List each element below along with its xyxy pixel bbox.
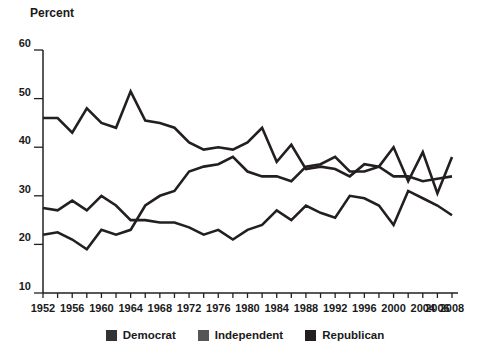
legend-label-independent: Independent bbox=[215, 329, 283, 341]
y-tick-label: 10 bbox=[19, 280, 31, 292]
legend-swatch-democrat bbox=[106, 330, 117, 341]
legend-swatch-independent bbox=[198, 330, 209, 341]
x-tick-label: 1976 bbox=[206, 302, 230, 314]
x-tick-label: 1964 bbox=[118, 302, 143, 314]
line-chart-plot: 605040302010 195219561960196419681972197… bbox=[0, 0, 490, 363]
chart-container: Percent 605040302010 1952195619601964196… bbox=[0, 0, 490, 363]
x-tick-label: 1960 bbox=[89, 302, 113, 314]
y-axis: 605040302010 bbox=[19, 37, 43, 293]
x-tick-label: 1956 bbox=[60, 302, 84, 314]
y-tick-label: 50 bbox=[19, 86, 31, 98]
series-lines bbox=[43, 91, 452, 249]
y-tick-label: 60 bbox=[19, 37, 31, 49]
y-tick-label: 20 bbox=[19, 231, 31, 243]
chart-legend: Democrat Independent Republican bbox=[0, 329, 490, 341]
x-axis: 1952195619601964196819721976198019841988… bbox=[31, 293, 464, 314]
legend-item-republican: Republican bbox=[305, 329, 384, 341]
x-tick-label: 1992 bbox=[323, 302, 347, 314]
x-tick-label: 2000 bbox=[381, 302, 405, 314]
y-tick-label: 40 bbox=[19, 134, 31, 146]
x-tick-label: 1980 bbox=[235, 302, 259, 314]
x-tick-label: 1972 bbox=[177, 302, 201, 314]
y-tick-label: 30 bbox=[19, 183, 31, 195]
series-line-republican bbox=[43, 191, 452, 240]
legend-swatch-republican bbox=[305, 330, 316, 341]
x-tick-label: 1952 bbox=[31, 302, 55, 314]
legend-label-republican: Republican bbox=[322, 329, 384, 341]
x-tick-label: 2008 bbox=[440, 302, 464, 314]
series-line-democrat bbox=[43, 91, 452, 181]
legend-item-democrat: Democrat bbox=[106, 329, 176, 341]
x-tick-label: 1996 bbox=[352, 302, 376, 314]
x-tick-label: 1968 bbox=[148, 302, 172, 314]
legend-item-independent: Independent bbox=[198, 329, 283, 341]
x-tick-label: 1984 bbox=[264, 302, 289, 314]
x-tick-label: 1988 bbox=[294, 302, 318, 314]
legend-label-democrat: Democrat bbox=[123, 329, 176, 341]
